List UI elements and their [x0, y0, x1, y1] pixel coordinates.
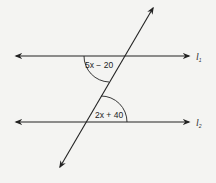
angle-label-2: 2x + 40: [95, 110, 123, 120]
angle-label-1: 5x − 20: [85, 60, 113, 70]
line-label-l2: l2: [196, 117, 202, 129]
diagram: 5x − 20 2x + 40 l1 l2: [0, 0, 216, 183]
line-label-l1: l1: [196, 51, 202, 63]
transversal-line: [60, 8, 153, 167]
